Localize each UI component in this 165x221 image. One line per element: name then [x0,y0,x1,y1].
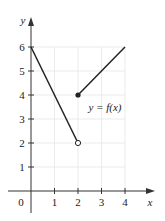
y-axis-label: y [20,14,26,26]
x-tick-label: 2 [75,196,81,208]
x-tick-label: 3 [99,196,105,208]
y-axis-arrow-icon [28,17,34,26]
y-tick-label: 1 [19,161,25,173]
origin-label: 0 [18,196,24,208]
open-endpoint-icon [75,140,80,145]
x-axis-label: x [147,196,153,208]
y-tick-label: 2 [19,137,25,149]
y-tick-label: 3 [19,113,25,125]
y-tick-label: 4 [19,89,25,101]
x-tick-label: 1 [52,196,58,208]
axes [8,22,152,213]
x-tick-label: 4 [122,196,128,208]
x-axis-arrow-icon [146,188,155,194]
function-annotation: y = f(x) [87,101,121,114]
closed-endpoint-icon [75,92,80,97]
y-tick-label: 5 [19,65,25,77]
function-graph: 0 1 2 3 4 x 1 2 3 4 5 6 y y = f(x) [0,0,165,221]
y-tick-label: 6 [19,41,25,53]
grid [31,47,125,191]
